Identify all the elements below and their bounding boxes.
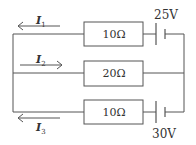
- current-label-i2: I2: [36, 54, 46, 70]
- circuit-diagram: 10Ω 20Ω 10Ω 25V 30V I1 I2 I3: [0, 0, 196, 145]
- battery-bottom-label: 30V: [152, 128, 176, 140]
- resistor-middle-label: 20Ω: [84, 68, 144, 79]
- resistor-bottom-label: 10Ω: [84, 107, 144, 118]
- battery-top-label: 25V: [154, 9, 178, 21]
- current-label-i3: I3: [36, 122, 46, 138]
- current-label-i1: I1: [36, 15, 46, 31]
- resistor-top-label: 10Ω: [84, 29, 144, 40]
